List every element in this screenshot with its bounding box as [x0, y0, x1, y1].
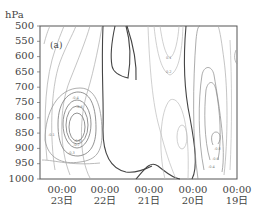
- svg-text:-0.1: -0.1: [48, 133, 55, 137]
- svg-text:-0.6: -0.6: [76, 105, 83, 109]
- svg-text:0.1: 0.1: [166, 56, 172, 60]
- svg-text:-0.4: -0.4: [208, 165, 216, 169]
- panel-label: (a): [50, 40, 62, 50]
- contours-mid: [148, 26, 188, 179]
- x-tick-label: 00:00 20日: [171, 184, 215, 206]
- y-tick-label: 700: [2, 82, 34, 92]
- plot-frame: [40, 26, 237, 179]
- x-tick-time: 00:00: [83, 184, 127, 195]
- svg-text:-0.6: -0.6: [212, 157, 219, 161]
- x-tick-label: 00:00 23日: [40, 184, 84, 206]
- x-tick-label: 00:00 21日: [127, 184, 171, 206]
- x-tick-day: 22日: [83, 195, 127, 206]
- x-tick-day: 20日: [171, 195, 215, 206]
- svg-text:0.2: 0.2: [166, 70, 172, 74]
- x-tick-day: 19日: [215, 195, 259, 206]
- y-tick-label: 550: [2, 36, 34, 46]
- y-tick-label: 900: [2, 143, 34, 153]
- y-tick-label: 500: [2, 21, 34, 31]
- svg-text:-0.8: -0.8: [214, 147, 221, 151]
- zero-contour-bottom: [136, 164, 180, 179]
- zero-contour-1: [102, 26, 152, 172]
- x-tick-time: 00:00: [215, 184, 259, 195]
- y-tick-label: 850: [2, 128, 34, 138]
- zero-contour-1b: [111, 26, 130, 78]
- y-tick-label: 800: [2, 112, 34, 122]
- y-tick-label: 950: [2, 158, 34, 168]
- y-tick-label: 600: [2, 51, 34, 61]
- svg-text:-0.7: -0.7: [73, 143, 80, 147]
- y-tick-label: 650: [2, 67, 34, 77]
- x-tick-time: 00:00: [127, 184, 171, 195]
- x-tick-day: 23日: [40, 195, 84, 206]
- x-tick-day: 21日: [127, 195, 171, 206]
- x-tick-time: 00:00: [171, 184, 215, 195]
- y-tick-label: 1000: [2, 174, 34, 184]
- x-tick-label: 00:00 22日: [83, 184, 127, 206]
- svg-text:-0.3: -0.3: [68, 151, 75, 155]
- x-tick-time: 00:00: [40, 184, 84, 195]
- y-tick-label: 750: [2, 97, 34, 107]
- svg-text:-0.4: -0.4: [72, 96, 80, 100]
- x-tick-label: 00:00 19日: [215, 184, 259, 206]
- y-axis-unit: hPa: [5, 10, 24, 20]
